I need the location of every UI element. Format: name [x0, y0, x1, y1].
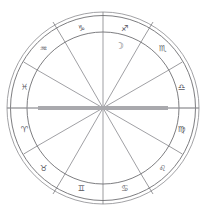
sign-glyph-sagittarius: ♐: [121, 23, 129, 33]
sign-glyph-capricorn: ♑: [77, 23, 85, 33]
sign-glyph-scorpio: ♏: [159, 43, 167, 53]
sign-glyph-pisces: ♓: [21, 82, 29, 92]
sign-glyph-leo: ♌: [159, 163, 167, 173]
planet-glyph-moon: ☽: [115, 40, 124, 51]
sign-glyph-aquarius: ♒: [40, 43, 48, 53]
sign-glyph-taurus: ♉: [40, 163, 48, 173]
sign-glyph-libra: ♎: [178, 82, 186, 92]
sign-glyph-aries: ♈: [21, 124, 29, 134]
astrology-chart-wheel: ♐ ♏ ♎ ♍ ♌ ♋ ♊ ♉ ♈ ♓ ♒ ♑ ☽: [0, 0, 206, 217]
chart-canvas: ♐ ♏ ♎ ♍ ♌ ♋ ♊ ♉ ♈ ♓ ♒ ♑ ☽: [0, 0, 206, 217]
sign-glyph-gemini: ♊: [77, 183, 85, 193]
sign-glyph-virgo: ♍: [178, 124, 186, 134]
planet-glyphs: ☽: [115, 40, 124, 51]
sign-glyph-cancer: ♋: [121, 183, 129, 193]
